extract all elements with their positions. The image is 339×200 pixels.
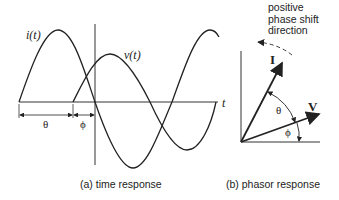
theta-arc xyxy=(268,92,295,122)
caption-phasor-response: (b) phasor response xyxy=(226,178,320,190)
current-waveform xyxy=(19,30,219,168)
theta-label: θ xyxy=(43,118,48,130)
phasor-phi-label: ϕ xyxy=(285,126,291,138)
phi-arc xyxy=(297,123,299,141)
voltage-phasor-label: V xyxy=(308,99,317,115)
current-phasor-label: I xyxy=(270,52,275,68)
phi-label: ϕ xyxy=(80,118,86,130)
phasor-theta-label: θ xyxy=(276,104,281,116)
time-axis-label: t xyxy=(222,96,225,111)
voltage-label: v(t) xyxy=(124,48,141,63)
caption-time-response: (a) time response xyxy=(80,178,162,190)
current-label: i(t) xyxy=(26,28,41,43)
phase-shift-note: positive phase shift direction xyxy=(268,2,319,37)
